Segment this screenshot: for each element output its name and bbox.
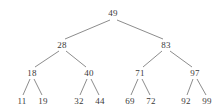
tree-leaf-node: 99: [202, 97, 211, 106]
tree-node: 83: [161, 41, 170, 50]
tree-edge: [170, 51, 192, 67]
tree-edge: [143, 51, 162, 67]
tree-edge: [131, 79, 138, 95]
tree-leaf-node: 32: [74, 97, 83, 106]
tree-node: 28: [57, 41, 66, 50]
tree-node: 97: [190, 69, 199, 78]
tree-edge: [80, 79, 87, 95]
tree-leaf-node: 44: [95, 97, 104, 106]
tree-edge: [197, 79, 206, 95]
tree-edge: [91, 79, 99, 95]
tree-edge: [34, 79, 42, 95]
tree-edge: [117, 20, 163, 39]
tree-node: 18: [27, 69, 36, 78]
tree-node: 71: [135, 69, 144, 78]
tree-leaf-node: 19: [38, 97, 47, 106]
tree-edge: [65, 20, 110, 39]
tree-root-node: 49: [108, 9, 117, 18]
tree-edge: [187, 79, 193, 95]
tree-edge: [23, 79, 30, 95]
tree-leaf-node: 92: [181, 97, 190, 106]
tree-leaf-node: 11: [17, 97, 26, 106]
tree-leaf-node: 72: [146, 97, 155, 106]
binary-search-tree-figure: 492883184071971119324469729299: [0, 0, 222, 112]
tree-leaf-node: 69: [125, 97, 134, 106]
tree-edge: [66, 51, 86, 67]
tree-node: 40: [84, 69, 93, 78]
tree-edge: [35, 51, 59, 67]
tree-edge: [142, 79, 150, 95]
